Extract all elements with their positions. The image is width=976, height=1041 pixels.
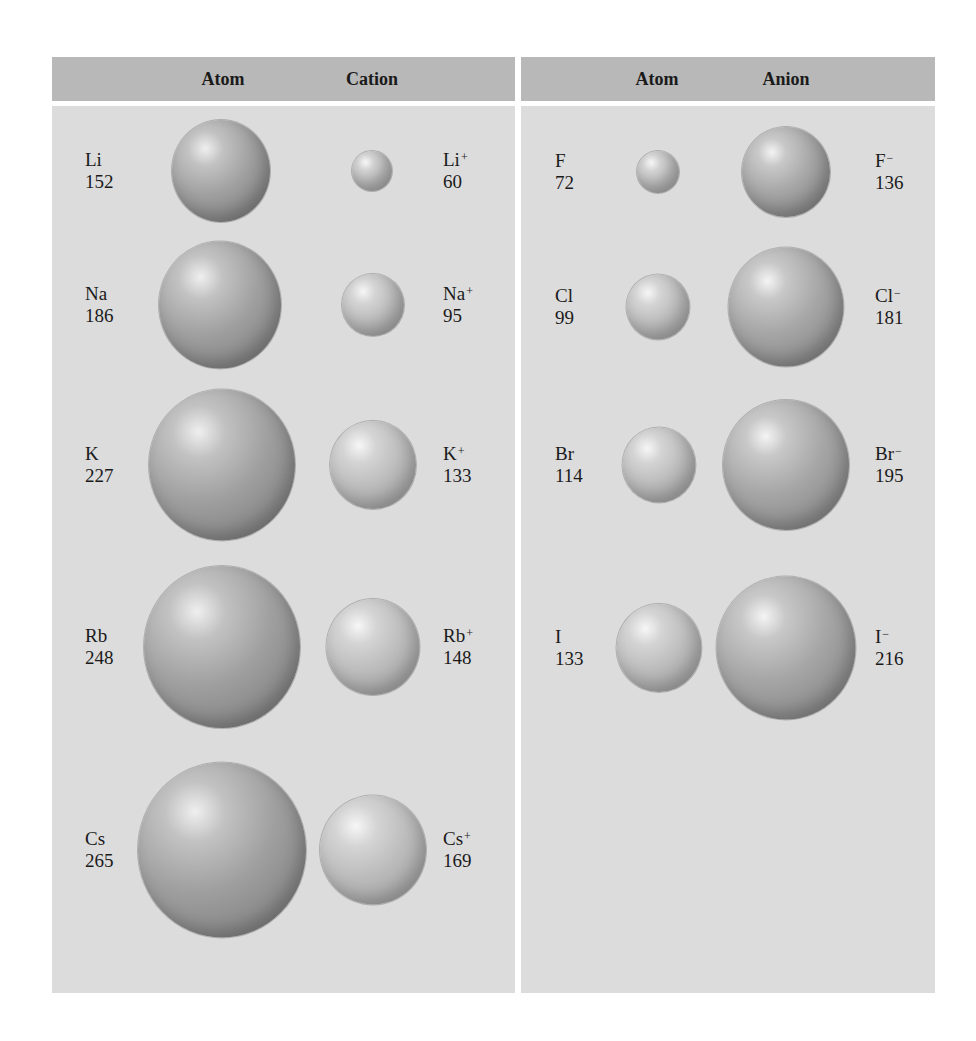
atom-radius: 133 (555, 648, 584, 670)
ion-radius: 216 (875, 648, 904, 670)
anion-sphere-i (717, 577, 856, 720)
cation-sphere-na (342, 274, 404, 336)
atom-symbol: Cs (85, 828, 114, 850)
anion-sphere-cl (729, 248, 844, 367)
ion-charge: + (466, 284, 473, 298)
ion-symbol: Br (875, 443, 894, 464)
ion-label: Br− 195 (875, 443, 904, 487)
atom-sphere-rb (144, 566, 300, 728)
anion-panel: Atom Anion F 72 F− 136 Cl 99 Cl− (521, 57, 935, 993)
cation-sphere-li (352, 151, 392, 191)
ion-charge: − (882, 627, 889, 641)
atom-symbol: K (85, 443, 114, 465)
ion-label: Cs+ 169 (443, 828, 472, 872)
atom-symbol: Rb (85, 625, 114, 647)
atom-sphere-i (617, 604, 702, 692)
atom-sphere-br (623, 428, 696, 503)
atom-label: Br 114 (555, 443, 583, 487)
ion-radius: 148 (443, 647, 473, 669)
anion-panel-header: Atom Anion (521, 57, 935, 101)
atom-label: Cl 99 (555, 285, 574, 329)
anion-panel-body: F 72 F− 136 Cl 99 Cl− 181 (521, 106, 935, 993)
ion-label: F− 136 (875, 150, 904, 194)
atom-radius: 186 (85, 305, 114, 327)
atom-label: Li 152 (85, 149, 114, 193)
ion-symbol: Rb (443, 625, 465, 646)
ion-charge: + (466, 626, 473, 640)
ion-charge: − (887, 151, 894, 165)
ion-charge: − (895, 444, 902, 458)
ion-radius: 195 (875, 465, 904, 487)
atom-sphere-k (149, 390, 295, 541)
ion-symbol: K (443, 443, 457, 464)
ion-charge: − (894, 286, 901, 300)
ion-charge: + (458, 444, 465, 458)
atom-radius: 265 (85, 850, 114, 872)
cation-sphere-rb (327, 599, 420, 695)
atom-sphere-f (637, 151, 679, 193)
atom-label: F 72 (555, 150, 574, 194)
ion-radius: 60 (443, 171, 468, 193)
ion-charge: + (464, 829, 471, 843)
ion-label: Na+ 95 (443, 283, 473, 327)
header-atom-label: Atom (202, 69, 245, 90)
cation-sphere-k (330, 421, 416, 509)
ion-radius: 133 (443, 465, 472, 487)
atom-sphere-cs (138, 763, 306, 938)
atom-sphere-li (172, 120, 270, 222)
header-atom-label: Atom (636, 69, 679, 90)
ion-radius: 169 (443, 850, 472, 872)
atom-label: Rb 248 (85, 625, 114, 669)
ion-symbol: Na (443, 283, 465, 304)
anion-sphere-br (723, 400, 849, 530)
atom-radius: 227 (85, 465, 114, 487)
ion-symbol: Cs (443, 828, 463, 849)
atom-symbol: Cl (555, 285, 574, 307)
atom-symbol: I (555, 626, 584, 648)
atom-symbol: Li (85, 149, 114, 171)
atom-symbol: F (555, 150, 574, 172)
atom-radius: 72 (555, 172, 574, 194)
atom-sphere-cl (627, 275, 690, 340)
cation-sphere-cs (320, 796, 426, 905)
atom-radius: 152 (85, 171, 114, 193)
ion-radius: 95 (443, 305, 473, 327)
header-cation-label: Cation (346, 69, 398, 90)
ion-label: Cl− 181 (875, 285, 904, 329)
ion-label: Rb+ 148 (443, 625, 473, 669)
cation-panel-body: Li 152 Li+ 60 Na 186 Na+ 95 (52, 106, 515, 993)
atom-symbol: Br (555, 443, 583, 465)
ion-label: I− 216 (875, 626, 904, 670)
atom-label: Cs 265 (85, 828, 114, 872)
atom-symbol: Na (85, 283, 114, 305)
anion-sphere-f (742, 127, 830, 217)
ion-radius: 181 (875, 307, 904, 329)
atom-label: I 133 (555, 626, 584, 670)
atom-sphere-na (159, 242, 281, 369)
atom-label: K 227 (85, 443, 114, 487)
atom-label: Na 186 (85, 283, 114, 327)
cation-panel: Atom Cation Li 152 Li+ 60 Na 186 (52, 57, 515, 993)
cation-panel-header: Atom Cation (52, 57, 515, 101)
header-anion-label: Anion (762, 69, 809, 90)
ion-symbol: F (875, 150, 886, 171)
ion-label: Li+ 60 (443, 149, 468, 193)
atom-radius: 99 (555, 307, 574, 329)
ion-symbol: Cl (875, 285, 893, 306)
ion-charge: + (461, 150, 468, 164)
ion-radius: 136 (875, 172, 904, 194)
atom-radius: 248 (85, 647, 114, 669)
ion-symbol: Li (443, 149, 460, 170)
ion-symbol: I (875, 626, 881, 647)
ion-label: K+ 133 (443, 443, 472, 487)
atom-radius: 114 (555, 465, 583, 487)
